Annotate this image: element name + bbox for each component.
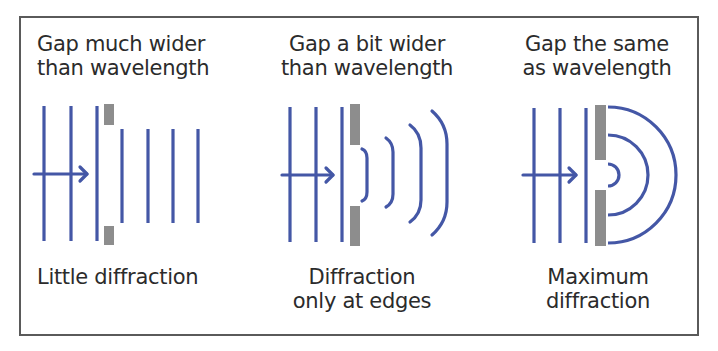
panel-2-graphic: [282, 107, 447, 242]
panel-2-barrier: [350, 104, 360, 246]
diffraction-diagram: [0, 0, 718, 351]
circular-wavefronts: [608, 107, 676, 243]
edge-diffracted-wavefronts: [362, 111, 447, 235]
panel-1-barrier: [104, 104, 114, 245]
transmitted-wavefronts: [122, 129, 198, 223]
panel-3-barrier: [595, 105, 606, 246]
panel-1-graphic: [34, 106, 198, 241]
arrow-icon: [523, 168, 576, 182]
arrow-icon: [34, 167, 87, 181]
